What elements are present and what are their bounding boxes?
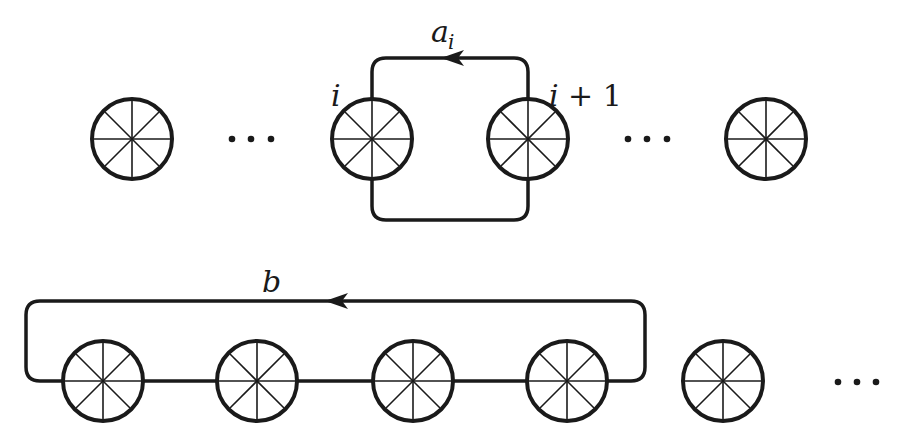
node-wheel — [726, 99, 806, 179]
ellipsis-dots — [835, 379, 880, 386]
node-wheel — [92, 99, 172, 179]
node-i-plus-1-var: i — [549, 78, 559, 113]
loop-a-subscript: i — [448, 30, 454, 54]
loop-b-label: b — [262, 264, 281, 299]
node-wheel — [373, 341, 453, 421]
loop-a-label: a — [431, 14, 449, 49]
ellipsis-dots — [229, 136, 275, 143]
node-wheel — [217, 341, 297, 421]
node-wheel — [527, 341, 607, 421]
node-wheel — [63, 341, 143, 421]
node-i-label: i — [331, 78, 341, 113]
node-i-plus-1-rest: + 1 — [568, 78, 622, 113]
node-wheel-i — [332, 99, 412, 179]
ellipsis-dots — [625, 136, 671, 143]
loop-diagram: a i i i + 1 b — [0, 0, 905, 446]
top-row — [92, 99, 806, 179]
node-wheel — [683, 341, 763, 421]
